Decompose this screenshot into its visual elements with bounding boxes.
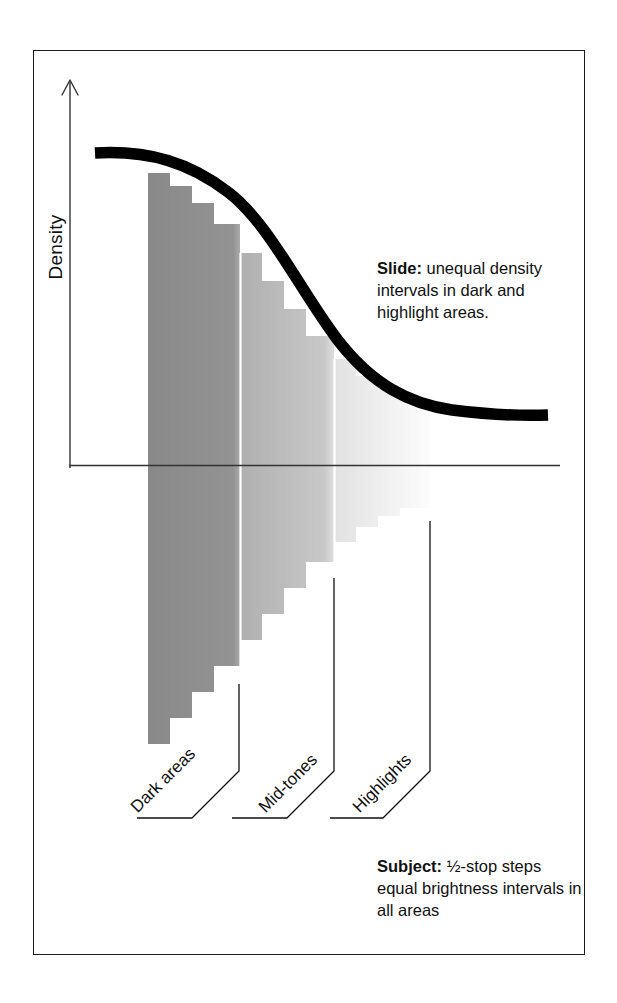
slide-callout: Slide: unequal density intervals in dark… [377, 258, 577, 323]
subject-callout: Subject: ½-stop steps equal brightness i… [377, 856, 582, 921]
y-axis-label: Density [45, 177, 67, 317]
slide-callout-lead: Slide: [377, 259, 422, 277]
subject-step-wedge [148, 430, 432, 790]
diagram-canvas [0, 0, 617, 1003]
figure-root: Density Slide: unequal density intervals… [0, 0, 617, 1003]
subject-callout-lead: Subject: [377, 857, 442, 875]
